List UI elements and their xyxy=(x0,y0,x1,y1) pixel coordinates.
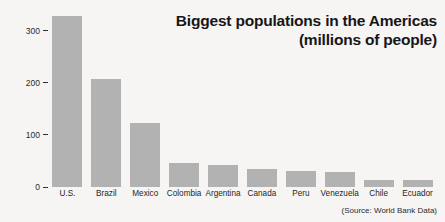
bar-ecuador xyxy=(403,180,433,187)
bar-brazil xyxy=(91,79,121,187)
x-axis-label: Mexico xyxy=(126,188,165,200)
y-axis-tick-label: 300 xyxy=(26,26,40,36)
x-axis-label: Peru xyxy=(281,188,320,200)
bar-venezuela xyxy=(325,172,355,187)
x-axis-label: Brazil xyxy=(87,188,126,200)
x-axis-label: Colombia xyxy=(165,188,204,200)
bar-argentina xyxy=(208,165,238,187)
source-note: (Source: World Bank Data) xyxy=(342,206,437,215)
bar-mexico xyxy=(130,123,160,187)
bar-u-s xyxy=(52,16,82,187)
bar-group xyxy=(403,180,433,187)
bar-group xyxy=(325,172,355,187)
bar-group xyxy=(286,171,316,187)
x-axis: U.S.BrazilMexicoColombiaArgentinaCanadaP… xyxy=(48,188,437,202)
bar-group xyxy=(91,79,121,187)
bar-group xyxy=(208,165,238,187)
x-axis-label: Venezuela xyxy=(320,188,359,200)
bar-chart-figure: Biggest populations in the Americas (mil… xyxy=(0,0,445,222)
bar-canada xyxy=(247,169,277,187)
bar-colombia xyxy=(169,163,199,187)
bar-group xyxy=(52,16,82,187)
y-axis-tick-label: 200 xyxy=(26,78,40,88)
bar-chile xyxy=(364,180,394,187)
bar-group xyxy=(130,123,160,187)
x-axis-label: Canada xyxy=(243,188,282,200)
bar-peru xyxy=(286,171,316,187)
y-axis-tick-label: 100 xyxy=(26,130,40,140)
x-axis-label: Argentina xyxy=(204,188,243,200)
bar-group xyxy=(247,169,277,187)
x-axis-label: U.S. xyxy=(48,188,87,200)
x-axis-label: Ecuador xyxy=(398,188,437,200)
y-axis: 0100200300 xyxy=(0,0,48,197)
bar-group xyxy=(169,163,199,187)
bars-layer xyxy=(48,0,437,187)
y-axis-tick-label: 0 xyxy=(35,182,40,192)
y-axis-tick: 200 xyxy=(26,78,48,88)
y-axis-tick: 0 xyxy=(35,182,48,192)
bar-group xyxy=(364,180,394,187)
x-axis-label: Chile xyxy=(359,188,398,200)
y-axis-tick: 100 xyxy=(26,130,48,140)
y-axis-tick: 300 xyxy=(26,26,48,36)
